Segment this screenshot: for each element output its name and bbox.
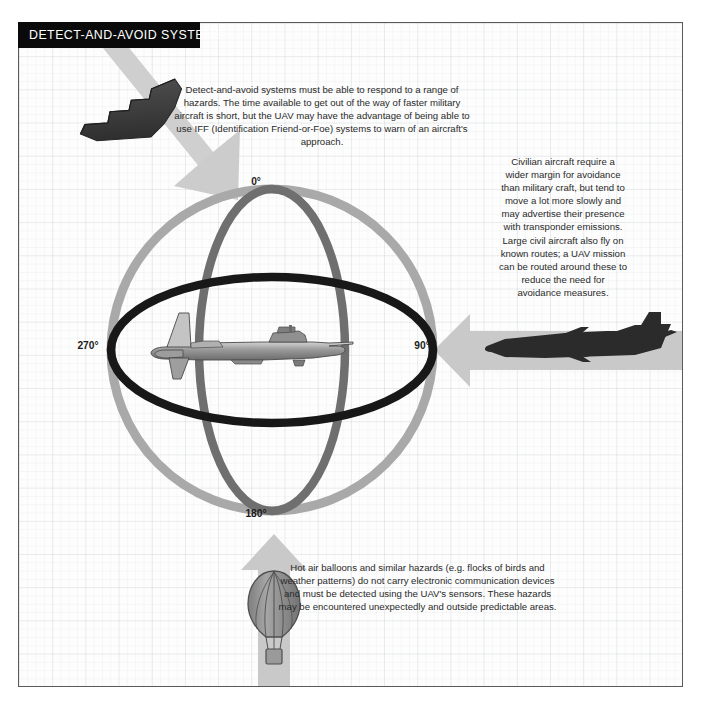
bearing-label-90: 90° [400, 340, 444, 351]
title-bar: DETECT-AND-AVOID SYSTEMS [18, 22, 200, 48]
caption-military-aircraft: Detect-and-avoid systems must be able to… [169, 83, 475, 148]
bearing-label-270: 270° [62, 340, 114, 351]
infographic-root: DETECT-AND-AVOID SYSTEMS Detect-and-avoi… [0, 0, 702, 706]
caption-balloon-hazards: Hot air balloons and similar hazards (e.… [277, 561, 558, 613]
page-title: DETECT-AND-AVOID SYSTEMS [18, 28, 223, 42]
bearing-label-0: 0° [232, 176, 280, 187]
bearing-label-180: 180° [228, 508, 284, 519]
caption-civil-aircraft: Civilian aircraft require a wider margin… [499, 155, 627, 299]
